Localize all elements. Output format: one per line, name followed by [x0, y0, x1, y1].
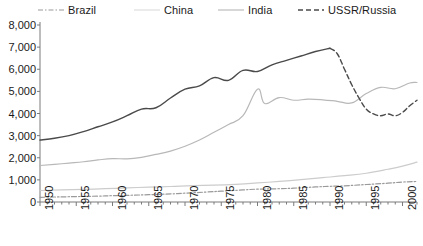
x-axis-tick-label: 1975	[225, 186, 236, 210]
x-axis-tick-label: 1990	[334, 186, 345, 210]
x-axis-tick-label: 1995	[370, 186, 381, 210]
x-axis-tick-label: 1985	[298, 186, 309, 210]
chart-container: Brazil China India USSR/Russia 01,000	[0, 0, 423, 246]
x-axis-tick-label: 1950	[44, 186, 55, 210]
x-axis-tick-label: 1980	[262, 186, 273, 210]
x-axis-tick-label: 1955	[80, 186, 91, 210]
x-axis-labels: 1950195519601965197019751980198519901995…	[0, 0, 423, 246]
x-axis-tick-label: 1970	[189, 186, 200, 210]
x-axis-tick-label: 1965	[153, 186, 164, 210]
plot-area: 01,0002,0003,0004,0005,0006,0007,0008,00…	[0, 0, 423, 246]
x-axis-tick-label: 2000	[407, 186, 418, 210]
x-axis-tick-label: 1960	[117, 186, 128, 210]
